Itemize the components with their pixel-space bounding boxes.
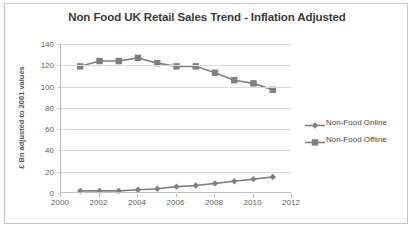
data-point-marker xyxy=(250,176,256,182)
y-tick-label: 120 xyxy=(41,61,54,70)
y-tickmark xyxy=(58,172,61,173)
y-tickmark xyxy=(58,129,61,130)
data-point-marker xyxy=(212,70,218,76)
gridline xyxy=(61,65,291,66)
gridline xyxy=(61,172,291,173)
plot-canvas xyxy=(60,44,291,193)
x-tick-label: 2000 xyxy=(51,198,69,207)
x-tickmark xyxy=(291,194,292,197)
x-tick-label: 2006 xyxy=(167,198,185,207)
y-tickmark xyxy=(58,44,61,45)
x-tickmark xyxy=(99,194,100,197)
data-point-marker xyxy=(212,180,218,186)
data-point-marker xyxy=(270,174,276,180)
legend-label: Non-Food Online xyxy=(325,118,387,127)
chart-legend: Non-Food OnlineNon-Food Offline xyxy=(305,114,405,148)
y-tickmark xyxy=(58,108,61,109)
x-axis-line xyxy=(61,192,291,193)
data-point-marker xyxy=(231,77,237,83)
legend-item[interactable]: Non-Food Online xyxy=(305,114,405,131)
legend-item[interactable]: Non-Food Offline xyxy=(305,131,405,148)
chart-title: Non Food UK Retail Sales Trend - Inflati… xyxy=(5,11,409,23)
legend-marker-icon xyxy=(305,117,325,128)
y-axis-tick-labels: 020406080100120140 xyxy=(33,44,57,193)
gridline xyxy=(61,44,291,45)
y-tickmark xyxy=(58,87,61,88)
y-tick-label: 40 xyxy=(45,146,54,155)
y-tickmark xyxy=(58,65,61,66)
x-tick-label: 2008 xyxy=(205,198,223,207)
y-tick-label: 80 xyxy=(45,103,54,112)
y-tick-label: 0 xyxy=(50,189,54,198)
x-tick-label: 2002 xyxy=(90,198,108,207)
data-point-marker xyxy=(135,55,141,61)
plot-area: 020406080100120140 200020022004200620082… xyxy=(33,44,295,199)
series-line xyxy=(80,58,273,90)
y-tick-label: 140 xyxy=(41,40,54,49)
gridline xyxy=(61,150,291,151)
data-series-layer xyxy=(61,44,292,193)
legend-marker-icon xyxy=(305,134,325,145)
data-point-marker xyxy=(231,178,237,184)
gridline xyxy=(61,87,291,88)
data-point-marker xyxy=(154,186,160,192)
x-axis-tick-labels: 2000200220042006200820102012 xyxy=(60,194,291,210)
x-tick-label: 2004 xyxy=(128,198,146,207)
x-tickmark xyxy=(176,194,177,197)
x-tickmark xyxy=(253,194,254,197)
gridline xyxy=(61,108,291,109)
y-tick-label: 20 xyxy=(45,167,54,176)
x-tickmark xyxy=(60,194,61,197)
y-axis-title: £ Bn adjusted to 2001 values xyxy=(17,53,26,183)
data-point-marker xyxy=(96,58,102,64)
y-tick-label: 60 xyxy=(45,125,54,134)
data-point-marker xyxy=(173,183,179,189)
x-tickmark xyxy=(137,194,138,197)
y-tick-label: 100 xyxy=(41,82,54,91)
data-point-marker xyxy=(250,80,256,86)
data-point-marker xyxy=(193,182,199,188)
x-tick-label: 2012 xyxy=(282,198,300,207)
x-tickmark xyxy=(214,194,215,197)
x-tick-label: 2010 xyxy=(244,198,262,207)
gridline xyxy=(61,129,291,130)
data-point-marker xyxy=(116,58,122,64)
legend-label: Non-Food Offline xyxy=(325,135,387,144)
y-tickmark xyxy=(58,150,61,151)
chart-container: Non Food UK Retail Sales Trend - Inflati… xyxy=(4,3,408,224)
